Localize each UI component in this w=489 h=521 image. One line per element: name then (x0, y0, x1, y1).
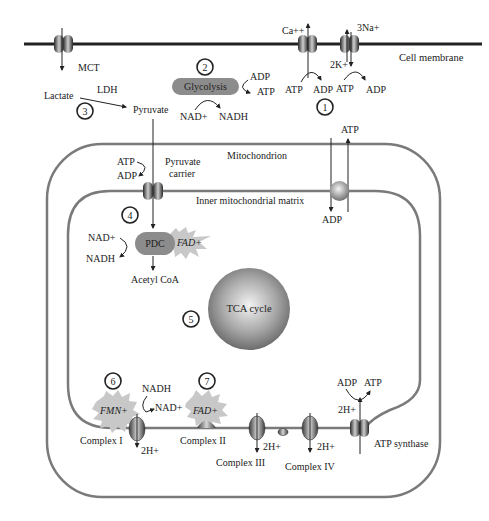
ant-transporter-icon (330, 181, 350, 201)
marker-7: 7 (199, 373, 215, 389)
glycolysis-nadh: NADH (219, 111, 248, 122)
pdc-nadh: NADH (86, 253, 115, 264)
glycolysis-adp: ADP (250, 71, 270, 82)
ldh-label: LDH (97, 84, 118, 95)
svg-text:1: 1 (323, 102, 328, 113)
complex1-protons: 2H+ (141, 445, 159, 456)
pdc-nad: NAD+ (88, 232, 116, 243)
ant-atp: ATP (341, 124, 359, 135)
marker-4: 4 (122, 207, 138, 223)
na-k-pump-icon (340, 35, 359, 53)
complex1-label: Complex I (80, 435, 123, 446)
ca-pump-adp: ADP (313, 84, 333, 95)
carrier-atp: ATP (117, 156, 135, 167)
marker-6: 6 (105, 373, 121, 389)
pyruvate-label: Pyruvate (133, 104, 169, 115)
svg-text:6: 6 (111, 376, 116, 387)
glycolysis-nad: NAD+ (180, 111, 208, 122)
lactate-label: Lactate (44, 90, 74, 101)
cell-membrane-label: Cell membrane (399, 52, 464, 63)
na-k-pump-adp: ADP (366, 84, 386, 95)
pdc-node: PDC (135, 232, 175, 255)
svg-text:2: 2 (203, 62, 208, 73)
marker-3: 3 (77, 103, 93, 119)
complex2-cofactor-label: FAD+ (192, 405, 218, 416)
ca-pump-atp: ATP (285, 84, 303, 95)
complex1-cofactor-label: FMN+ (99, 405, 128, 416)
acetyl-coa-label: Acetyl CoA (131, 274, 180, 285)
complex1-nadh: NADH (142, 383, 171, 394)
cytochrome-c-icon (278, 429, 288, 436)
svg-text:Glycolysis: Glycolysis (184, 81, 227, 92)
svg-text:3: 3 (83, 106, 88, 117)
atp-synthase-adp: ADP (337, 377, 357, 388)
pyruvate-carrier-label-2: carrier (169, 168, 196, 179)
marker-2: 2 (197, 59, 213, 75)
ant-adp: ADP (322, 214, 342, 225)
glycolysis-atp: ATP (257, 86, 275, 97)
mct-label: MCT (78, 62, 100, 73)
tca-label: TCA cycle (226, 303, 272, 314)
k-ion-label: 2K+ (330, 59, 348, 70)
marker-1: 1 (317, 99, 333, 115)
complex4-protons: 2H+ (317, 441, 335, 452)
complex3-protons: 2H+ (263, 441, 281, 452)
complex4-label: Complex IV (285, 461, 335, 472)
complex3-label: Complex III (216, 457, 265, 468)
svg-text:7: 7 (205, 376, 210, 387)
metabolism-diagram: Cell membrane MCT Ca++ 3Na+ 2K+ ATP ADP … (0, 0, 489, 521)
svg-text:5: 5 (189, 314, 194, 325)
na-k-pump-atp: ATP (336, 83, 354, 94)
svg-text:4: 4 (128, 210, 133, 221)
atp-synthase-label: ATP synthase (374, 438, 429, 449)
carrier-adp: ADP (117, 170, 137, 181)
ca-ion-label: Ca++ (282, 25, 305, 36)
inner-matrix-label: Inner mitochondrial matrix (196, 195, 304, 206)
complex1-nad: NAD+ (155, 402, 183, 413)
glycolysis-node: Glycolysis (172, 78, 239, 95)
mitochondrion-label: Mitochondrion (227, 150, 287, 161)
na-ion-label: 3Na+ (357, 22, 380, 33)
mct-channel-icon (54, 35, 73, 53)
atp-synthase-atp: ATP (364, 377, 382, 388)
pyruvate-carrier-label-1: Pyruvate (165, 156, 201, 167)
marker-5: 5 (183, 311, 199, 327)
svg-text:PDC: PDC (145, 238, 165, 249)
atp-synthase-protons: 2H+ (338, 404, 356, 415)
pdc-cofactor-label: FAD+ (176, 237, 202, 248)
complex2-label: Complex II (180, 435, 226, 446)
